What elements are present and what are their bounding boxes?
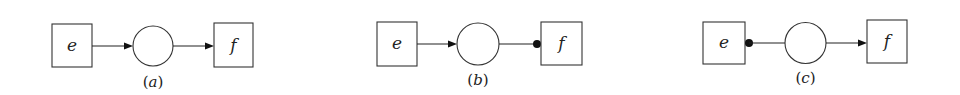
caption-letter: c (801, 69, 810, 87)
panel-caption: (c) (795, 69, 815, 87)
caption-letter: b (473, 71, 483, 89)
panel-b: e f (b) (377, 22, 582, 89)
caption-letter: a (149, 73, 158, 91)
dot-end-icon (533, 40, 541, 48)
hidden-node-circle (133, 26, 173, 66)
arrowhead-icon (205, 43, 214, 50)
panel-c: e f (c) (703, 20, 907, 87)
hidden-node-circle (785, 23, 826, 64)
diagram-canvas: e f (a) e f (b) e f (c) (0, 0, 960, 95)
source-label: e (392, 33, 402, 53)
source-label: e (719, 32, 729, 52)
arrowhead-icon (448, 41, 457, 48)
panel-caption: (a) (143, 73, 164, 91)
hidden-node-circle (457, 23, 499, 65)
panel-caption: (b) (467, 71, 488, 89)
panel-a: e f (a) (52, 23, 253, 91)
arrowhead-icon (858, 40, 867, 47)
arrowhead-icon (124, 43, 133, 50)
source-label: e (67, 35, 77, 55)
